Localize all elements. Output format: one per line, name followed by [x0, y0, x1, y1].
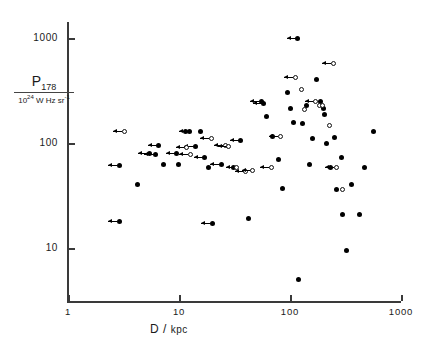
- upper-limit-arrow: [144, 154, 153, 155]
- y-axis-tick: [69, 143, 75, 145]
- y-axis-tick-label: 100: [14, 137, 58, 148]
- x-axis-tick: [179, 295, 181, 301]
- upper-limit-arrow: [108, 221, 117, 222]
- upper-limit-arrow: [214, 145, 223, 146]
- data-point-filled: [300, 121, 305, 126]
- data-point-open: [293, 75, 298, 80]
- upper-limit-arrow: [284, 77, 293, 78]
- upper-limit-arrow: [138, 153, 147, 154]
- data-point-open: [340, 187, 345, 192]
- upper-limit-arrow: [218, 146, 227, 147]
- data-point-filled: [183, 129, 188, 134]
- x-axis-tick-label: 100: [270, 306, 310, 317]
- data-point-filled: [324, 141, 329, 146]
- figure-canvas: P178 1024 W Hz sr-1 D / kpc 110100100010…: [0, 0, 435, 356]
- upper-limit-arrow: [179, 131, 188, 132]
- upper-limit-arrow: [325, 167, 334, 168]
- data-point-filled: [295, 36, 300, 41]
- data-point-filled: [117, 163, 122, 168]
- data-point-filled: [153, 152, 158, 157]
- data-point-filled: [198, 129, 203, 134]
- data-point-open: [234, 165, 239, 170]
- data-point-filled: [349, 182, 354, 187]
- x-axis-tick: [68, 295, 70, 301]
- y-axis-label: P178 1024 W Hz sr-1: [14, 74, 74, 105]
- data-point-filled: [259, 99, 264, 104]
- data-point-open: [223, 143, 228, 148]
- data-point-filled: [261, 101, 266, 106]
- data-point-filled: [314, 77, 319, 82]
- upper-limit-arrow: [201, 223, 210, 224]
- data-point-filled: [187, 129, 192, 134]
- data-point-filled: [147, 151, 152, 156]
- data-point-filled: [340, 212, 345, 217]
- data-point-filled: [270, 134, 275, 139]
- y-axis-line: [67, 22, 69, 303]
- data-point-filled: [174, 151, 179, 156]
- data-point-open: [188, 152, 193, 157]
- data-point-open: [334, 165, 339, 170]
- upper-limit-arrow: [253, 103, 262, 104]
- data-point-open: [243, 169, 248, 174]
- data-point-filled: [161, 162, 166, 167]
- y-axis-label-denominator: 1024 W Hz sr-1: [14, 92, 74, 105]
- data-point-filled: [285, 90, 290, 95]
- data-point-open: [327, 123, 332, 128]
- data-point-filled: [202, 155, 207, 160]
- upper-limit-arrow: [242, 170, 251, 171]
- data-point-open: [331, 61, 336, 66]
- data-point-filled: [321, 106, 326, 111]
- data-point-open: [317, 103, 322, 108]
- data-point-filled: [304, 103, 309, 108]
- upper-limit-arrow: [250, 101, 259, 102]
- data-point-open: [122, 129, 127, 134]
- data-point-filled: [332, 135, 337, 140]
- data-point-filled: [334, 187, 339, 192]
- x-axis-tick-label: 1: [48, 306, 88, 317]
- x-axis-line: [67, 301, 401, 303]
- data-point-filled: [135, 182, 140, 187]
- upper-limit-arrow: [235, 171, 244, 172]
- data-point-filled: [291, 120, 296, 125]
- upper-limit-arrow: [230, 140, 239, 141]
- data-point-open: [313, 99, 318, 104]
- upper-limit-arrow: [269, 136, 278, 137]
- data-point-open: [269, 165, 274, 170]
- upper-limit-arrow: [148, 145, 157, 146]
- x-axis-label: D / kpc: [150, 322, 188, 336]
- data-point-open: [278, 134, 283, 139]
- data-point-filled: [322, 112, 327, 117]
- data-point-open: [302, 107, 307, 112]
- data-point-filled: [264, 114, 269, 119]
- y-axis-label-numerator: P178: [14, 74, 74, 92]
- data-point-filled: [238, 138, 243, 143]
- data-point-filled: [206, 165, 211, 170]
- upper-limit-arrow: [113, 131, 122, 132]
- upper-limit-arrow: [260, 167, 269, 168]
- data-point-open: [250, 168, 255, 173]
- upper-limit-arrow: [194, 157, 203, 158]
- upper-limit-arrow: [108, 165, 117, 166]
- data-point-open: [320, 103, 325, 108]
- upper-limit-arrow: [200, 138, 209, 139]
- data-point-filled: [280, 186, 285, 191]
- upper-limit-arrow: [179, 154, 188, 155]
- data-point-filled: [193, 144, 198, 149]
- upper-limit-arrow: [176, 147, 185, 148]
- data-point-filled: [318, 99, 323, 104]
- data-point-filled: [307, 162, 312, 167]
- data-point-filled: [288, 106, 293, 111]
- x-axis-tick: [290, 295, 292, 301]
- data-point-filled: [344, 248, 349, 253]
- data-point-filled: [296, 277, 301, 282]
- x-axis-tick: [401, 295, 403, 301]
- data-point-open: [226, 144, 231, 149]
- upper-limit-arrow: [184, 146, 193, 147]
- data-point-filled: [328, 165, 333, 170]
- x-axis-tick-label: 1000: [381, 306, 421, 317]
- data-point-filled: [357, 212, 362, 217]
- data-point-filled: [339, 155, 344, 160]
- x-axis-tick-label: 10: [159, 306, 199, 317]
- upper-limit-arrow: [226, 167, 235, 168]
- y-axis-tick: [69, 248, 75, 250]
